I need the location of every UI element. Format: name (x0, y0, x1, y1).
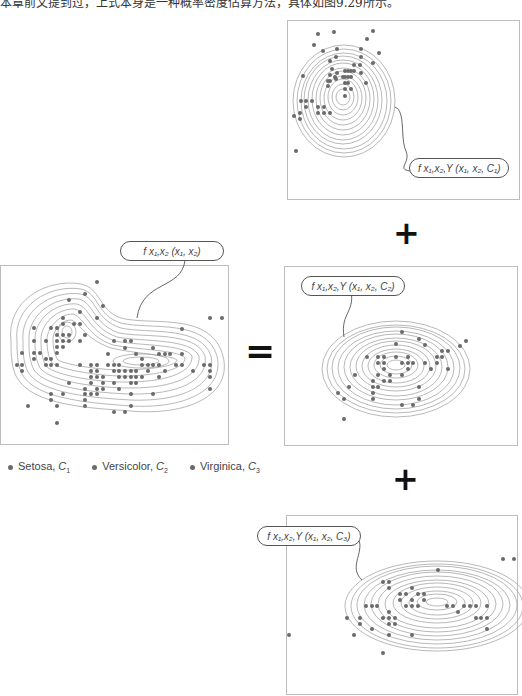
legend-label-virginica: Virginica, C3 (200, 460, 260, 474)
panel-virginica-density: f x₁,x₂,Y (x₁, x₂, C₃) (286, 515, 518, 695)
equals-sign: = (245, 333, 275, 369)
setosa-marker-icon (8, 465, 13, 470)
versicolor-density-label-text: f x₁,x₂,Y (x₁, x₂, C₂) (311, 281, 394, 292)
legend-item-virginica: Virginica, C3 (190, 460, 260, 474)
panel-joint-density (0, 265, 229, 445)
legend: Setosa, C1 Versicolor, C2 Virginica, C3 (8, 460, 260, 474)
setosa-density-label-text: f x₁,x₂,Y (x₁, x₂, C₁) (418, 163, 500, 174)
setosa-density-label: f x₁,x₂,Y (x₁, x₂, C₁) (409, 158, 509, 178)
panel-setosa-density: f x₁,x₂,Y (x₁, x₂, C₁) (287, 20, 520, 200)
virginica-marker-icon (190, 465, 195, 470)
joint-density-label: f x₁,x₂ (x₁, x₂) (120, 241, 224, 261)
legend-label-versicolor: Versicolor, C2 (102, 460, 168, 474)
joint-label-connector (130, 260, 190, 320)
virginica-density-label: f x₁,x₂,Y (x₁, x₂, C₃) (257, 526, 361, 546)
legend-label-setosa: Setosa, C1 (18, 460, 70, 474)
legend-item-setosa: Setosa, C1 (8, 460, 70, 474)
versicolor-density-label: f x₁,x₂,Y (x₁, x₂, C₂) (301, 276, 405, 296)
joint-density-label-text: f x₁,x₂ (x₁, x₂) (143, 246, 200, 257)
plus-sign-2: + (392, 463, 419, 495)
legend-item-versicolor: Versicolor, C2 (92, 460, 168, 474)
joint-contour-plot (1, 266, 230, 446)
plus-sign-1: + (393, 217, 420, 249)
virginica-density-label-text: f x₁,x₂,Y (x₁, x₂, C₃) (267, 531, 350, 542)
figure-caption: 本章前文提到过，上式本身是一种概率密度估算方法，具体如图9.29所示。 (0, 0, 522, 10)
versicolor-marker-icon (92, 465, 97, 470)
panel-versicolor-density: f x₁,x₂,Y (x₁, x₂, C₂) (284, 266, 518, 446)
